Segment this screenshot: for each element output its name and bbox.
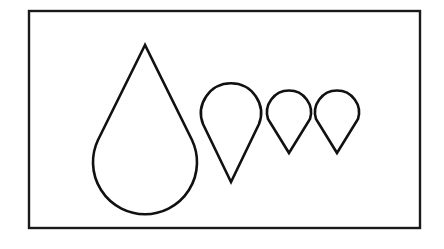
small-teardrop-2: [315, 90, 359, 153]
small-teardrop-1: [267, 90, 311, 153]
medium-teardrop: [201, 83, 261, 182]
large-teardrop: [93, 45, 197, 214]
teardrop-diagram: [0, 0, 444, 249]
outer-frame: [29, 11, 420, 228]
